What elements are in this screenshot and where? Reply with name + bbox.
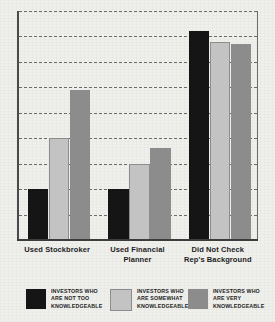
legend-item[interactable]: INVESTORS WHOARE NOT TOOKNOWLEDGEABLE [26,288,102,310]
bar-chart [17,11,258,240]
legend-swatch [26,289,46,309]
legend-label: INVESTORS WHOARE VERYKNOWLEDGEABLE [213,288,264,310]
x-axis-label-line: Used Stockbroker [11,245,103,255]
x-axis-label: Used Stockbroker [11,245,103,255]
legend-swatch [188,289,208,309]
legend-item[interactable]: INVESTORS WHOARE SOMEWHATKNOWLEDGEABLE [110,288,188,311]
bar [70,90,91,240]
legend-label-line: KNOWLEDGEABLE [51,303,102,310]
bar [108,189,129,240]
legend-label: INVESTORS WHOARE SOMEWHATKNOWLEDGEABLE [137,288,188,310]
x-axis-labels: Used StockbrokerUsed FinancialPlannerDid… [17,245,258,277]
legend-swatch [110,289,132,311]
x-axis-label-line: Did Not Check [172,245,264,255]
bar [210,42,231,240]
plot-area [17,11,258,240]
legend-label-line: KNOWLEDGEABLE [213,303,264,310]
legend-label-line: INVESTORS WHO [137,288,188,295]
legend-label-line: ARE VERY [213,295,264,302]
x-axis-label: Did Not CheckRep's Background [172,245,264,265]
legend-label: INVESTORS WHOARE NOT TOOKNOWLEDGEABLE [51,288,102,310]
bar [189,31,210,240]
bar-series-container [19,11,257,240]
legend-label-line: KNOWLEDGEABLE [137,303,188,310]
legend-item[interactable]: INVESTORS WHOARE VERYKNOWLEDGEABLE [188,288,264,310]
x-axis-label: Used FinancialPlanner [91,245,183,265]
bar [129,164,150,240]
legend-label-line: INVESTORS WHO [51,288,102,295]
legend-label-line: ARE NOT TOO [51,295,102,302]
x-axis-line [17,239,258,241]
legend-label-line: INVESTORS WHO [213,288,264,295]
bar [150,148,171,240]
x-axis-label-line: Used Financial [91,245,183,255]
x-axis-label-line: Rep's Background [172,255,264,265]
bar [49,138,70,240]
x-axis-label-line: Planner [91,255,183,265]
chart-legend: INVESTORS WHOARE NOT TOOKNOWLEDGEABLEINV… [26,288,258,316]
legend-label-line: ARE SOMEWHAT [137,295,188,302]
bar [28,189,49,240]
bar [231,44,252,240]
